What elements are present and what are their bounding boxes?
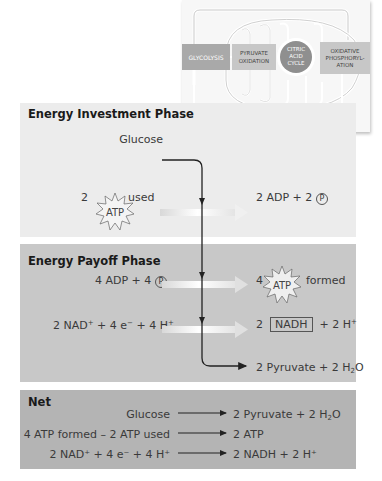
net-row-2-right: 2 NADH + 2 H⁺ [233, 448, 317, 461]
energy-payoff-panel: Energy Payoff Phase 4 ADP + 4 P 4 formed… [20, 244, 356, 382]
net-row-1-left: 4 ATP formed – 2 ATP used [24, 428, 170, 441]
net-row-2-left: 2 NAD⁺ + 4 e⁻ + 4 H⁺ [49, 448, 170, 461]
pyruvate-product: 2 Pyruvate + 2 H2O [256, 361, 364, 375]
net-title: Net [28, 395, 51, 409]
svg-text:CYCLE: CYCLE [287, 60, 305, 66]
svg-text:OXIDATIVE: OXIDATIVE [330, 48, 360, 54]
net-row-0-right: 2 Pyruvate + 2 H2O [233, 408, 341, 422]
net-row-1-right: 2 ATP [233, 428, 264, 441]
atp-used-coef: 2 [81, 191, 88, 204]
investment-product: 2 ADP + 2 P [256, 191, 328, 205]
svg-text:PYRUVATE: PYRUVATE [240, 50, 269, 56]
nadh-product: 2 NADH + 2 H+ [256, 317, 357, 332]
svg-text:ACID: ACID [289, 53, 302, 59]
phosphate-icon: P [316, 193, 328, 205]
adp-reactant: 4 ADP + 4 P [95, 274, 167, 288]
atp-used-label: used [128, 191, 154, 204]
phosphate-icon: P [155, 276, 167, 288]
atp-formed-label: formed [306, 274, 345, 287]
svg-text:ATION: ATION [337, 62, 354, 68]
atp-formed-coef: 4 [256, 274, 263, 287]
energy-investment-panel: Energy Investment Phase Glucose 2 used 2… [20, 103, 356, 237]
svg-text:OXIDATION: OXIDATION [239, 58, 269, 64]
svg-text:CITRIC: CITRIC [287, 46, 305, 52]
nad-reactant: 2 NAD+ + 4 e− + 4 H+ [53, 319, 174, 332]
net-panel: Net Glucose 2 Pyruvate + 2 H2O 4 ATP for… [20, 390, 356, 469]
net-row-0-left: Glucose [126, 408, 170, 421]
glucose-label: Glucose [119, 133, 163, 146]
glycolysis-label: GLYCOLYSIS [188, 54, 223, 61]
nadh-box: NADH [270, 317, 313, 332]
investment-title: Energy Investment Phase [28, 107, 194, 121]
svg-text:PHOSPHORYL-: PHOSPHORYL- [326, 55, 365, 61]
payoff-title: Energy Payoff Phase [28, 254, 161, 268]
